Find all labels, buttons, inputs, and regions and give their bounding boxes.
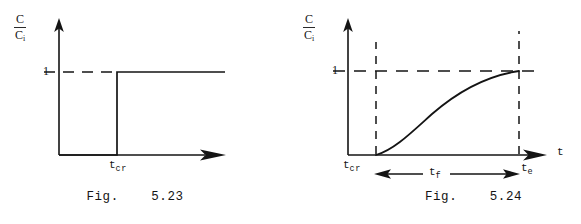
y-axis-label-5-24: C Ci xyxy=(303,13,315,41)
y-axis-label-numerator: C xyxy=(303,13,315,28)
figure-5-24: C Ci 1 tcr te tf t Fig. 5.24 xyxy=(290,0,581,224)
y-tick-label-1-5-24: 1 xyxy=(332,63,338,78)
dimension-line-tf-5-24 xyxy=(374,169,520,179)
x-tick-label-tcr-5-24: tcr xyxy=(343,159,361,171)
x-tick-label-te-5-24: te xyxy=(521,162,533,174)
dimension-label-tf-5-24: tf xyxy=(429,166,441,178)
y-axis-label-denominator: Ci xyxy=(14,28,26,42)
figure-caption-5-23: Fig. 5.23 xyxy=(0,190,280,204)
figure-caption-5-24: Fig. 5.24 xyxy=(328,190,581,204)
y-axis-5-24 xyxy=(343,18,353,155)
curve-exponential-5-24 xyxy=(376,71,519,155)
x-axis-label-5-24: t xyxy=(557,146,564,158)
y-axis-label-5-23: C Ci xyxy=(14,13,26,41)
figure-5-23: C Ci 1 tcr Fig. 5.23 xyxy=(0,0,290,224)
y-tick-label-1-5-23: 1 xyxy=(43,64,49,79)
y-axis-label-denominator: Ci xyxy=(303,28,315,42)
y-axis-label-numerator: C xyxy=(14,13,26,28)
x-tick-label-tcr-5-23: tcr xyxy=(109,159,127,171)
figure-page: C Ci 1 tcr Fig. 5.23 xyxy=(0,0,581,224)
y-axis-5-23 xyxy=(54,18,64,155)
curve-step-5-23 xyxy=(59,72,225,155)
